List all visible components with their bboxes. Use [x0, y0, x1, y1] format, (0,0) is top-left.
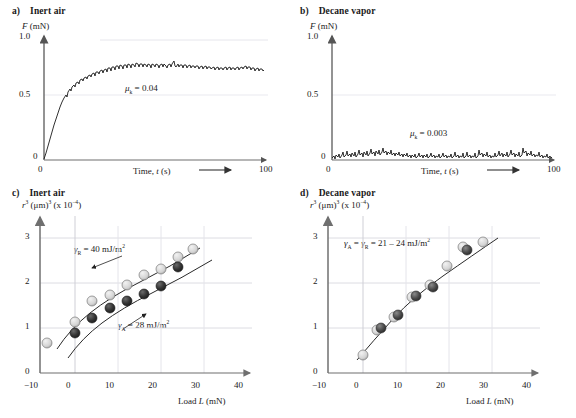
- figure-root: a) Inert air F (mN) 1.0 0.5 0 0 100 μk =…: [0, 0, 576, 418]
- panel-b: b) Decane vapor F (mN) 1.0 0.5 0 0 100 μ…: [288, 0, 576, 186]
- panel-c-plot: [0, 186, 288, 418]
- panel-d-fit: [357, 238, 498, 360]
- panel-d: d) Decane vapor r3 (μm)3 (x 10−4) 3 2 1 …: [288, 186, 576, 418]
- panel-b-plot: [288, 0, 576, 186]
- panel-d-series-receding: [358, 237, 488, 360]
- panel-c: c) Inert air r3 (μm)3 (x 10−4) 3 2 1 0 −…: [0, 186, 288, 418]
- panel-a-plot: [0, 0, 288, 186]
- panel-c-series-receding: [42, 244, 198, 348]
- panel-b-trace: [332, 148, 552, 159]
- panel-a: a) Inert air F (mN) 1.0 0.5 0 0 100 μk =…: [0, 0, 288, 186]
- panel-a-trace: [44, 61, 264, 159]
- panel-d-plot: [288, 186, 576, 418]
